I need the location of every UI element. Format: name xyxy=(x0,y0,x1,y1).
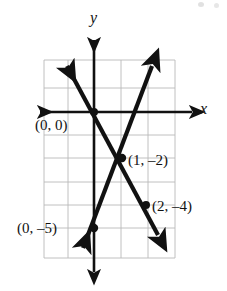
coordinate-plane-svg xyxy=(0,0,227,291)
label-intersection-1-neg2: (1, –2) xyxy=(128,152,168,169)
scan-speck xyxy=(198,2,204,7)
axis-label-y: y xyxy=(90,9,97,27)
point-1-neg2 xyxy=(118,154,126,162)
label-y-intercept-neg5: (0, –5) xyxy=(17,220,57,237)
point-2-neg4 xyxy=(142,201,150,209)
point-origin xyxy=(90,108,98,116)
axis-label-x: x xyxy=(200,100,207,118)
label-origin: (0, 0) xyxy=(35,117,68,134)
label-point-2-neg4: (2, –4) xyxy=(152,198,192,215)
point-0-neg5 xyxy=(90,224,98,232)
scan-speck xyxy=(214,3,219,8)
graph-figure: (0, 0) (1, –2) (2, –4) (0, –5) x y xyxy=(0,0,227,291)
